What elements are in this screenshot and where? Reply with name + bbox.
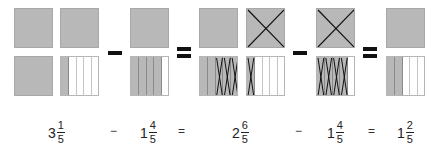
fifth-strip [162,57,169,95]
fifth-strip [61,57,69,95]
equals-sign-bar [363,47,377,51]
minus-sign [293,51,307,55]
fifth-strip [395,57,403,95]
denominator: 5 [58,134,64,145]
mixed-number: 1 4 5 [327,120,344,145]
fraction: 4 5 [149,120,157,145]
fifth-strip [69,57,77,95]
numerator: 4 [337,120,343,131]
fifth-strip [92,57,99,95]
minus-sign [108,51,122,55]
whole-square [60,8,99,48]
fifths-square [386,56,425,96]
fifth-strip [418,57,425,95]
fifth-strip [154,57,162,95]
equals-symbol: = [178,124,185,138]
fifth-strip [387,57,395,95]
denominator: 5 [242,134,248,145]
equals-sign-bar [363,54,377,58]
mixed-number: 1 4 5 [140,120,157,145]
numerator: 6 [242,120,248,131]
fifths-square [130,56,169,96]
mixed-number: 2 6 5 [232,120,249,145]
mixed-number: 3 1 5 [48,120,65,145]
numerator: 2 [407,120,413,131]
whole-square [199,8,238,48]
cross-out-icon [247,57,285,96]
cross-out-icon [317,9,355,48]
whole-square [246,8,285,48]
whole-part: 3 [48,125,56,141]
equals-sign-bar [177,54,191,58]
numerator: 4 [150,120,156,131]
fraction: 1 5 [57,120,65,145]
numerator: 1 [58,120,64,131]
whole-square [14,56,53,96]
minus-symbol: − [110,124,117,138]
fifth-strip [410,57,418,95]
fifth-strip [147,57,155,95]
fifths-square [246,56,285,96]
minus-symbol: − [295,124,302,138]
whole-part: 1 [397,125,405,141]
fraction: 4 5 [336,120,344,145]
fifth-strip [77,57,85,95]
fraction: 2 5 [406,120,414,145]
denominator: 5 [337,134,343,145]
cross-out-icon [247,9,285,48]
mixed-number: 1 2 5 [397,120,414,145]
whole-square [316,8,355,48]
fraction: 6 5 [241,120,249,145]
equals-sign-bar [177,47,191,51]
fifth-strip [84,57,92,95]
fifths-square [60,56,99,96]
fifths-square [316,56,355,96]
cross-out-icon [317,57,355,96]
fifths-square [199,56,238,96]
whole-square [14,8,53,48]
cross-out-icon [200,57,238,96]
whole-part: 1 [140,125,148,141]
fifth-strip [131,57,139,95]
whole-part: 1 [327,125,335,141]
whole-square [386,8,425,48]
equals-symbol: = [368,124,375,138]
whole-square [130,8,169,48]
fifth-strip [403,57,411,95]
fifth-strip [139,57,147,95]
denominator: 5 [150,134,156,145]
denominator: 5 [407,134,413,145]
whole-part: 2 [232,125,240,141]
